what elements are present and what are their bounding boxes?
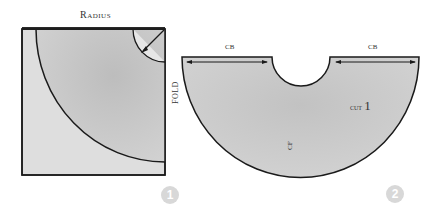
cut-instruction: cut 1 [350,98,371,114]
cb-left-label: CB [225,43,234,51]
radius-label: Radius [80,9,111,20]
pattern-diagram [0,0,437,214]
step-2-badge: 2 [386,185,404,203]
cb-right-label: CB [368,43,377,51]
cut-count: 1 [364,98,371,113]
fold-label: FOLD [171,81,180,104]
cape-pattern-piece [182,57,419,177]
step-1-badge: 1 [161,186,179,204]
cf-label: CF [286,141,294,150]
cut-label: cut [350,102,362,112]
folded-fabric-square [22,27,165,175]
